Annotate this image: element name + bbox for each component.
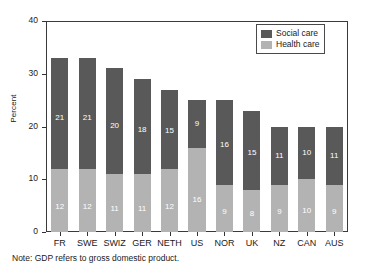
bar-segment-social-care: 9 (188, 100, 205, 147)
bar-group: 916 (216, 100, 233, 232)
x-axis-tick-mark (142, 232, 143, 236)
bar-group: 815 (243, 111, 260, 232)
bar-value-label-social-care: 18 (134, 126, 151, 134)
bar-value-label-health-care: 10 (298, 207, 315, 215)
legend-swatch-health-care (261, 41, 272, 49)
y-axis-tick-mark (42, 127, 46, 128)
bar-segment-health-care: 9 (271, 185, 288, 232)
bar-value-label-health-care: 12 (79, 203, 96, 211)
chart-figure: Percent 12211221112011181215169916815911… (0, 0, 366, 275)
bar-value-label-social-care: 15 (161, 127, 178, 135)
bar-segment-social-care: 10 (298, 127, 315, 180)
bar-segment-social-care: 15 (161, 90, 178, 169)
bar-value-label-social-care: 11 (326, 152, 343, 160)
bar-group: 1215 (161, 90, 178, 232)
legend-label-social-care: Social care (276, 29, 318, 38)
bar-segment-social-care: 16 (216, 100, 233, 184)
bar-segment-social-care: 15 (243, 111, 260, 190)
bar-value-label-health-care: 16 (188, 196, 205, 204)
bar-segment-social-care: 21 (79, 58, 96, 169)
x-axis-tick-label: NZ (273, 238, 285, 248)
legend-label-health-care: Health care (276, 40, 319, 49)
x-axis-tick-mark (87, 232, 88, 236)
x-axis-tick-label: SWIZ (103, 238, 126, 248)
y-axis-title: Percent (9, 74, 18, 144)
bar-segment-social-care: 21 (51, 58, 68, 169)
chart-legend: Social care Health care (256, 24, 325, 54)
y-axis-tick-label: 0 (33, 226, 38, 236)
legend-item-health-care: Health care (261, 39, 319, 50)
bar-value-label-health-care: 11 (134, 205, 151, 213)
bar-value-label-social-care: 15 (243, 149, 260, 157)
y-axis-tick-label: 40 (29, 15, 38, 25)
legend-item-social-care: Social care (261, 28, 319, 39)
x-axis-tick-label: US (191, 238, 204, 248)
bar-value-label-social-care: 11 (271, 152, 288, 160)
bar-value-label-social-care: 21 (51, 114, 68, 122)
chart-note: Note: GDP refers to gross domestic produ… (12, 253, 179, 263)
bar-group: 169 (188, 100, 205, 232)
x-axis-tick-mark (307, 232, 308, 236)
bar-segment-health-care: 10 (298, 179, 315, 232)
bar-value-label-health-care: 9 (216, 208, 233, 216)
bar-group: 1120 (106, 68, 123, 232)
bar-segment-social-care: 11 (326, 127, 343, 185)
x-axis-tick-mark (252, 232, 253, 236)
bar-segment-health-care: 11 (134, 174, 151, 232)
bar-value-label-health-care: 9 (326, 208, 343, 216)
x-axis-tick-label: AUS (325, 238, 344, 248)
y-axis-tick-label: 30 (29, 68, 38, 78)
x-axis-tick-mark (197, 232, 198, 236)
bar-segment-social-care: 11 (271, 127, 288, 185)
bar-group: 1221 (79, 58, 96, 232)
x-axis-tick-label: CAN (297, 238, 316, 248)
y-axis-tick-mark (42, 232, 46, 233)
x-axis-tick-label: NETH (157, 238, 182, 248)
x-axis-tick-label: NOR (214, 238, 234, 248)
bar-segment-health-care: 9 (216, 185, 233, 232)
x-axis-tick-label: FR (54, 238, 66, 248)
bar-value-label-health-care: 12 (161, 203, 178, 211)
x-axis-tick-mark (170, 232, 171, 236)
bar-value-label-social-care: 10 (298, 149, 315, 157)
bar-value-label-social-care: 9 (188, 120, 205, 128)
bar-group: 1010 (298, 127, 315, 233)
bar-value-label-health-care: 12 (51, 203, 68, 211)
bar-group: 911 (271, 127, 288, 233)
bar-segment-health-care: 8 (243, 190, 260, 232)
bar-segment-health-care: 12 (79, 169, 96, 232)
y-axis-tick-mark (42, 21, 46, 22)
x-axis-tick-mark (115, 232, 116, 236)
bar-value-label-social-care: 20 (106, 122, 123, 130)
bar-group: 1221 (51, 58, 68, 232)
x-axis-tick-mark (224, 232, 225, 236)
bar-segment-health-care: 9 (326, 185, 343, 232)
bar-segment-health-care: 11 (106, 174, 123, 232)
y-axis-tick-mark (42, 74, 46, 75)
bar-value-label-health-care: 8 (243, 210, 260, 218)
bar-value-label-health-care: 11 (106, 205, 123, 213)
y-axis-tick-mark (42, 179, 46, 180)
y-axis-tick-label: 20 (29, 121, 38, 131)
bar-segment-social-care: 18 (134, 79, 151, 174)
legend-swatch-social-care (261, 30, 272, 38)
y-axis-tick-label: 10 (29, 173, 38, 183)
x-axis-tick-label: GER (132, 238, 152, 248)
bar-segment-social-care: 20 (106, 68, 123, 174)
bar-segment-health-care: 12 (51, 169, 68, 232)
bar-group: 1118 (134, 79, 151, 232)
bar-segment-health-care: 12 (161, 169, 178, 232)
x-axis-tick-label: UK (246, 238, 259, 248)
bar-segment-health-care: 16 (188, 148, 205, 232)
x-axis-tick-mark (60, 232, 61, 236)
x-axis-tick-mark (334, 232, 335, 236)
bar-value-label-health-care: 9 (271, 208, 288, 216)
bar-value-label-social-care: 16 (216, 141, 233, 149)
x-axis-tick-label: SWE (77, 238, 98, 248)
bar-group: 911 (326, 127, 343, 233)
x-axis: FRSWESWIZGERNETHUSNORUKNZCANAUS (46, 232, 348, 254)
x-axis-tick-mark (279, 232, 280, 236)
bar-value-label-social-care: 21 (79, 114, 96, 122)
